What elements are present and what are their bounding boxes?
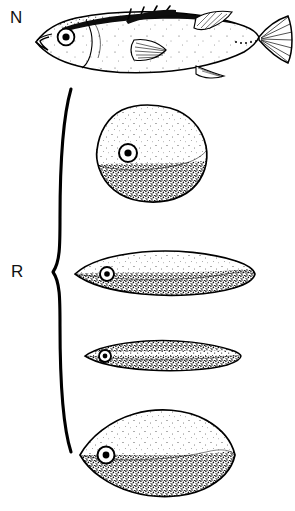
specimen-illustrations <box>0 0 295 511</box>
anal-fin <box>196 66 224 78</box>
specimen-normal-fish <box>30 5 292 80</box>
specimen-radiated-lens-long <box>70 248 260 300</box>
specimen-radiated-rhomboid <box>90 100 215 210</box>
specimen-radiated-lens-thin <box>80 337 248 374</box>
figure-root: N R <box>0 0 295 511</box>
specimen-radiated-oval-deep <box>74 405 242 502</box>
curly-brace <box>53 89 71 452</box>
caudal-fin <box>259 16 292 63</box>
